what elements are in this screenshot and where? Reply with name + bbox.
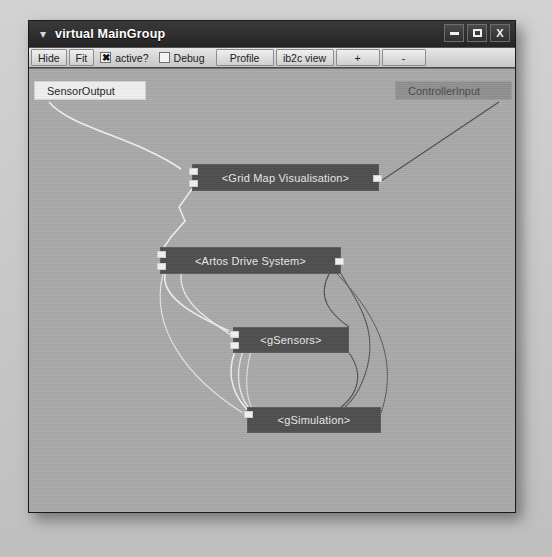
node-port-right[interactable] bbox=[373, 175, 382, 182]
maximize-icon bbox=[473, 29, 482, 37]
profile-button[interactable]: Profile bbox=[216, 49, 274, 66]
graph-canvas[interactable]: SensorOutput ControllerInput <Grid Map V… bbox=[29, 68, 515, 512]
wire-controllerinput-gridmap bbox=[381, 102, 499, 181]
wire-artosdrive-gsensors-a bbox=[165, 274, 229, 331]
ib2c-view-button[interactable]: ib2c view bbox=[276, 49, 334, 66]
close-button[interactable]: X bbox=[490, 24, 510, 42]
minimize-button[interactable] bbox=[444, 24, 464, 42]
node-port-input[interactable] bbox=[244, 411, 253, 418]
fit-button[interactable]: Fit bbox=[69, 49, 95, 66]
connection-wires bbox=[29, 69, 515, 512]
node-label: ControllerInput bbox=[408, 85, 480, 97]
wire-artosdrive-gsensors-b bbox=[181, 274, 231, 335]
node-port-output[interactable] bbox=[230, 342, 239, 349]
node-label: <gSensors> bbox=[260, 334, 321, 346]
wire-gsensors-gsimulation-dark bbox=[329, 353, 358, 415]
hide-button[interactable]: Hide bbox=[31, 49, 67, 66]
active-checkbox-label: active? bbox=[115, 52, 148, 64]
toolbar: Hide Fit ✖ active? Debug Profile ib2c vi… bbox=[29, 47, 515, 68]
node-gsimulation[interactable]: <gSimulation> bbox=[247, 407, 381, 433]
active-checkbox-box[interactable]: ✖ bbox=[100, 52, 111, 63]
node-gsensors[interactable]: <gSensors> bbox=[233, 327, 349, 353]
node-label: SensorOutput bbox=[47, 85, 115, 97]
debug-checkbox-label: Debug bbox=[174, 52, 205, 64]
application-window: ▾ virtual MainGroup X Hide Fit ✖ active? bbox=[28, 20, 516, 513]
window-title: virtual MainGroup bbox=[55, 27, 165, 41]
node-grid-map-visualisation[interactable]: <Grid Map Visualisation> bbox=[192, 164, 379, 191]
debug-checkbox-box[interactable] bbox=[159, 52, 170, 63]
wire-sensoroutput-gridmap bbox=[49, 102, 181, 169]
page-root: ▾ virtual MainGroup X Hide Fit ✖ active? bbox=[0, 0, 552, 557]
node-port-output[interactable] bbox=[157, 263, 166, 270]
wire-gsensors-gsimulation-b bbox=[238, 351, 253, 413]
window-controls: X bbox=[444, 24, 510, 42]
node-label: <gSimulation> bbox=[278, 414, 351, 426]
node-port-right[interactable] bbox=[335, 258, 344, 265]
node-label: <Artos Drive System> bbox=[195, 255, 306, 267]
toolbar-separator bbox=[211, 49, 214, 66]
node-sensor-output[interactable]: SensorOutput bbox=[34, 81, 146, 100]
node-port-input[interactable] bbox=[157, 251, 166, 258]
node-port-input[interactable] bbox=[189, 168, 198, 175]
node-port-input[interactable] bbox=[230, 331, 239, 338]
node-port-output[interactable] bbox=[189, 180, 198, 187]
wire-gsensors-gsimulation-a bbox=[231, 351, 251, 413]
window-titlebar[interactable]: ▾ virtual MainGroup X bbox=[29, 21, 515, 47]
wire-gridmap-artosdrive bbox=[160, 189, 192, 253]
node-artos-drive-system[interactable]: <Artos Drive System> bbox=[160, 247, 341, 274]
maximize-button[interactable] bbox=[467, 24, 487, 42]
zoom-in-button[interactable]: + bbox=[336, 49, 380, 66]
node-label: <Grid Map Visualisation> bbox=[222, 172, 350, 184]
wire-gsensors-gsimulation-c bbox=[247, 351, 255, 413]
debug-checkbox[interactable]: Debug bbox=[155, 49, 209, 66]
chevron-down-icon[interactable]: ▾ bbox=[35, 26, 51, 42]
active-checkbox[interactable]: ✖ active? bbox=[96, 49, 152, 66]
node-controller-input[interactable]: ControllerInput bbox=[395, 81, 512, 100]
zoom-out-button[interactable]: - bbox=[382, 49, 426, 66]
minimize-icon bbox=[450, 32, 459, 35]
